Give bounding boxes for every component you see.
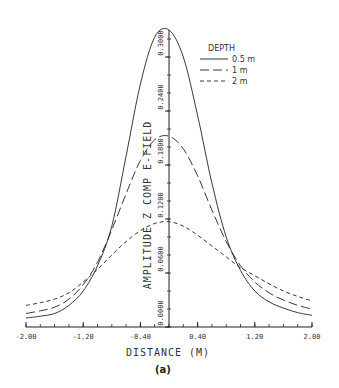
y-tick-label: 0.0000 — [157, 300, 165, 325]
legend-label: 2 m — [232, 77, 248, 86]
x-ticks: -2.00-1.20-0.400.401.202.00 — [15, 322, 320, 341]
x-tick-label: -0.40 — [130, 333, 151, 341]
x-axis-title: DISTANCE (M) — [126, 347, 210, 358]
y-axis-title: AMPLITUDE Z COMP E-FIELD — [142, 121, 153, 290]
x-tick-label: -2.00 — [15, 333, 36, 341]
y-tick-label: 0.2400 — [157, 84, 165, 109]
legend: DEPTH 0.5 m1 m2 m — [200, 44, 255, 86]
legend-label: 1 m — [232, 66, 248, 75]
x-tick-label: 2.00 — [304, 333, 321, 341]
legend-label: 0.5 m — [232, 55, 255, 64]
y-tick-label: 0.1800 — [157, 138, 165, 163]
axes: -2.00-1.20-0.400.401.202.00 0.00000.0600… — [15, 30, 320, 341]
y-tick-label: 0.0600 — [157, 246, 165, 271]
x-tick-label: -1.20 — [73, 333, 94, 341]
y-tick-label: 0.3000 — [157, 30, 165, 55]
x-tick-label: 1.20 — [246, 333, 263, 341]
chart: -2.00-1.20-0.400.401.202.00 0.00000.0600… — [0, 0, 339, 388]
legend-title: DEPTH — [208, 44, 235, 53]
y-tick-label: 0.1200 — [157, 192, 165, 217]
figure-caption: (a) — [155, 364, 171, 375]
x-tick-label: 0.40 — [189, 333, 206, 341]
